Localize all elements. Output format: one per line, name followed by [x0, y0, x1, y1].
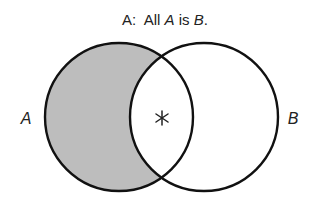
- circle-a-label: A: [20, 110, 32, 127]
- venn-diagram: A: All A is B. A B: [0, 0, 317, 199]
- circle-b-label: B: [288, 110, 299, 127]
- diagram-title: A: All A is B.: [122, 11, 208, 28]
